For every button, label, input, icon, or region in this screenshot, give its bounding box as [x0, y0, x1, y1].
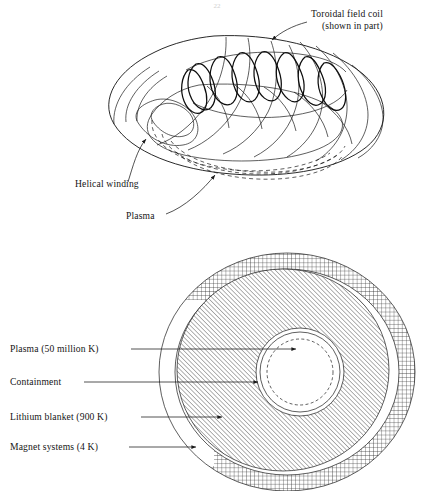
label-toroidal-field-coil-line1: Toroidal field coil — [311, 8, 383, 19]
label-toroidal-field-coil-line2: (shown in part) — [322, 20, 383, 32]
label-lithium-blanket: Lithium blanket (900 K) — [10, 411, 108, 423]
figure-root: 22 — [0, 0, 434, 491]
label-containment: Containment — [10, 376, 61, 387]
tokamak-figure: 22 — [0, 0, 434, 491]
label-magnet-systems: Magnet systems (4 K) — [10, 441, 98, 453]
label-plasma-temperature: Plasma (50 million K) — [10, 343, 99, 355]
label-plasma: Plasma — [126, 210, 155, 221]
page-number: 22 — [214, 2, 222, 10]
lithium-blanket-region — [150, 245, 434, 491]
label-helical-winding: Helical winding — [75, 178, 139, 189]
